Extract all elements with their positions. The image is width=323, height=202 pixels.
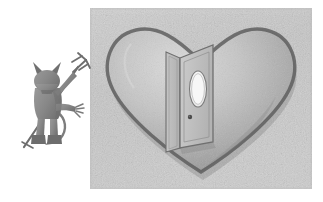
door-knob — [188, 115, 192, 119]
leg-right — [50, 117, 58, 136]
door-frame-jamb — [166, 52, 180, 152]
door-knob-highlight — [189, 116, 191, 118]
neck-shadow — [41, 90, 53, 94]
boot-left — [31, 135, 46, 144]
boot-right — [47, 135, 62, 144]
open-door — [166, 45, 216, 154]
illustration-canvas: Devil beside a heart with an open door S… — [0, 0, 323, 202]
heart-panel — [90, 8, 312, 189]
oval-window-glass — [192, 74, 205, 105]
illustration-artwork — [0, 0, 323, 202]
